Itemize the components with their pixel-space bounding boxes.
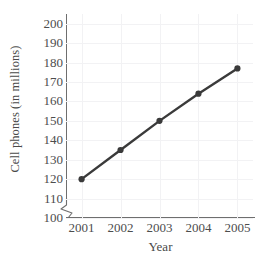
x-tick-label: 2004 <box>176 221 220 234</box>
y-axis-tick-labels: 200190180170160150140130120110100 <box>20 0 63 258</box>
data-point-marker <box>234 65 240 71</box>
data-series-line <box>66 14 253 218</box>
y-tick-label: 140 <box>23 133 63 146</box>
data-point-marker <box>78 176 84 182</box>
y-tick-label: 170 <box>23 75 63 88</box>
data-point-marker <box>117 147 123 153</box>
line-chart-figure: Cell phones (in millions) 20019018017016… <box>0 0 259 258</box>
y-tick-label: 160 <box>23 94 63 107</box>
x-axis-tick-labels: 20012002200320042005 <box>66 221 255 239</box>
y-tick-label: 110 <box>23 192 63 205</box>
x-tick-label: 2001 <box>60 221 104 234</box>
data-point-marker <box>156 118 162 124</box>
y-tick-label: 200 <box>23 17 63 30</box>
x-axis-title: Year <box>66 239 255 255</box>
y-tick-label: 120 <box>23 172 63 185</box>
y-tick-label: 130 <box>23 153 63 166</box>
x-tick-label: 2002 <box>99 221 143 234</box>
x-tick-label: 2005 <box>215 221 259 234</box>
plot-area <box>66 14 253 218</box>
y-tick-label: 180 <box>23 56 63 69</box>
data-point-marker <box>195 91 201 97</box>
y-tick-label: 190 <box>23 36 63 49</box>
y-tick-label: 100 <box>23 211 63 224</box>
x-tick-label: 2003 <box>138 221 182 234</box>
y-tick-label: 150 <box>23 114 63 127</box>
gridline-horizontal <box>66 218 253 219</box>
